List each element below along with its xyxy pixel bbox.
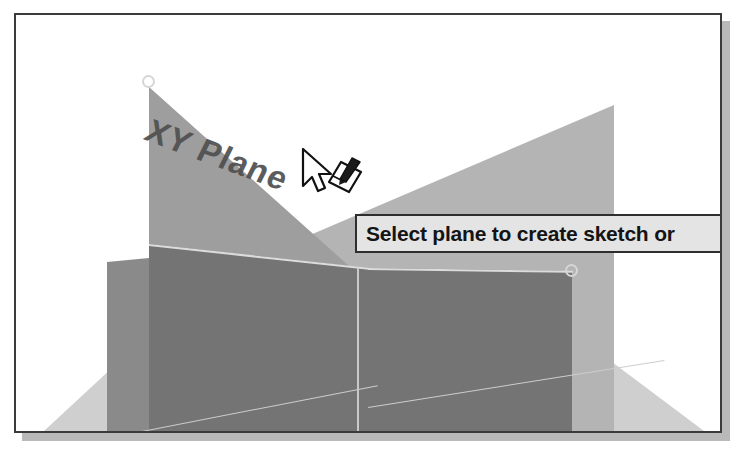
3d-viewport[interactable]: XY Plane Select plane to create sketch o… (14, 13, 722, 433)
screenshot-root: XY Plane Select plane to create sketch o… (0, 0, 744, 465)
selection-tooltip-text: Select plane to create sketch or (366, 222, 675, 246)
plane-corner-handle-right[interactable] (565, 264, 578, 277)
selection-tooltip: Select plane to create sketch or (355, 214, 722, 253)
plane-corner-handle-top[interactable] (142, 75, 155, 88)
